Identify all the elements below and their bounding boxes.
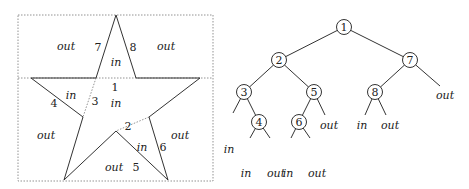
region-label: in (137, 141, 148, 154)
tree-node-label: 7 (407, 54, 414, 67)
edge-number-label: 4 (51, 97, 58, 110)
tree-leaf-label: in (283, 167, 294, 180)
edge-number-label: 6 (160, 141, 167, 154)
region-label: in (66, 89, 77, 102)
tree-node-label: 5 (311, 86, 318, 99)
tree-node-label: 4 (256, 116, 263, 129)
tree-node-label: 6 (296, 116, 303, 129)
tree-leaves: outinoutinoutinoutinout (224, 89, 455, 180)
region-label: out (57, 40, 76, 53)
region-label: in (111, 97, 122, 110)
region-label: out (37, 129, 56, 142)
star-edge-labels: 78134265 (51, 41, 167, 174)
region-label: out (105, 161, 124, 174)
tree-leaf-label: in (357, 119, 368, 132)
edge-number-label: 8 (130, 41, 137, 54)
tree-node-label: 1 (341, 21, 348, 34)
tree-leaf-label: in (241, 167, 252, 180)
tree-leaf-label: out (436, 89, 455, 102)
edge-number-label: 1 (112, 81, 119, 94)
tree-leaf-label: out (308, 167, 327, 180)
tree-leaf-label: out (381, 119, 400, 132)
edge-number-label: 5 (133, 161, 140, 174)
edge-number-label: 2 (125, 120, 132, 133)
tree-node-label: 2 (276, 54, 283, 67)
tree-node-label: 3 (241, 86, 248, 99)
tree-leaf-label: in (224, 143, 235, 156)
tree-leaf-label: out (320, 119, 339, 132)
tree-node-label: 8 (372, 86, 379, 99)
edge-number-label: 7 (95, 41, 102, 54)
region-label: in (111, 56, 122, 69)
diagram-canvas: outoutinininoutinoutout 78134265 1273584… (0, 0, 469, 189)
split-line-2 (116, 117, 149, 131)
region-label: out (157, 40, 176, 53)
edge-number-label: 3 (92, 95, 99, 108)
region-label: out (171, 129, 190, 142)
star-region-labels: outoutinininoutinoutout (37, 40, 190, 174)
